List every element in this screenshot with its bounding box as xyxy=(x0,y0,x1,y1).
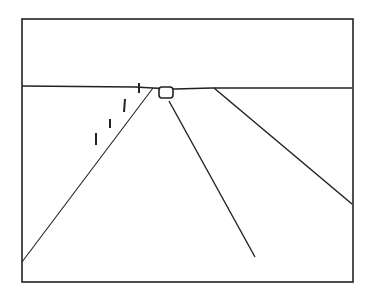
frame-border xyxy=(22,19,353,282)
horizon-line xyxy=(22,86,352,89)
road-perspective-sketch xyxy=(0,0,368,298)
road-left-edge xyxy=(22,88,153,262)
road-right-edge xyxy=(214,88,352,204)
roadside-post xyxy=(124,99,125,112)
distant-vehicle-icon xyxy=(159,87,173,98)
road-center-line xyxy=(169,101,255,257)
